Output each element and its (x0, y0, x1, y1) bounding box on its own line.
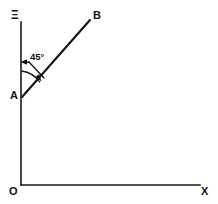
angle-leader-line (29, 62, 44, 78)
angle-measure-label: 45° (30, 52, 44, 62)
geometry-figure: Ξ B A O X 45° (0, 0, 218, 204)
figure-canvas (0, 0, 218, 204)
x-axis-label: X (201, 186, 208, 197)
point-a-label: A (10, 90, 18, 101)
y-axis-label: Ξ (11, 9, 18, 21)
point-b-label: B (93, 10, 101, 21)
origin-label: O (9, 186, 18, 197)
